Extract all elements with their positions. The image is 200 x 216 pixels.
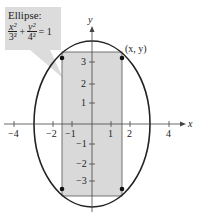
fraction-x: x² 3² <box>8 22 17 41</box>
x-axis-arrow-icon <box>180 122 186 127</box>
y-tick-label: −1 <box>76 138 87 149</box>
x-tick-label: 1 <box>108 128 113 139</box>
x-tick-label: 2 <box>127 128 132 139</box>
y-tick-label: 1 <box>81 97 86 108</box>
x-tick-label: 4 <box>166 128 171 139</box>
y-tick-label: −2 <box>76 158 87 169</box>
y-tick-label: 3 <box>81 56 86 67</box>
y-tick-label: −3 <box>76 175 87 186</box>
fraction-y: y² 4² <box>27 22 36 41</box>
x-tick-label: −1 <box>65 128 76 139</box>
y-axis-label: y <box>87 14 93 25</box>
x-tick-label: −2 <box>46 128 57 139</box>
y-tick-label: 2 <box>81 78 86 89</box>
x-tick-label: −4 <box>8 128 19 139</box>
y-axis-arrow-icon <box>90 26 95 32</box>
point-label: (x, y) <box>125 43 147 55</box>
x-axis-label: x <box>187 118 193 129</box>
callout-title: Ellipse: <box>8 9 42 21</box>
ellipse-equation: x² 3² + y² 4² = 1 <box>8 22 52 41</box>
